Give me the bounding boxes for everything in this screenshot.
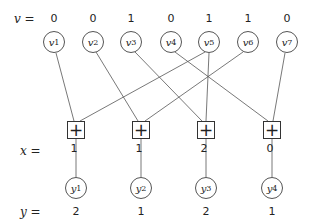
y4-sub: 4 [272,184,277,193]
v7-sub: 7 [287,38,292,47]
edge-v6-x2 [145,52,243,121]
edge-v3-x3 [135,52,202,121]
v5-sub: 5 [209,38,214,47]
sum-node-3-plus-icon: + [197,121,215,139]
v5-node: v5 [198,31,220,53]
v4-value: 0 [161,13,181,25]
v2-sub: 2 [93,38,98,47]
v7-value: 0 [277,13,297,25]
y1-value: 2 [66,206,86,218]
edge-v5-x1 [80,52,205,121]
v4-node: v4 [160,31,182,53]
y3-node: y3 [195,177,217,199]
y2-node: y2 [130,177,152,199]
x1-value: 1 [64,143,84,155]
row-label-y: y = [20,205,41,219]
v6-value: 1 [238,13,258,25]
y4-node: y4 [261,177,283,199]
v3-node: v3 [120,31,142,53]
y2-sub: 2 [141,184,146,193]
y1-node: y1 [65,177,87,199]
edge-v5-x3 [206,53,209,121]
v1-node: v1 [43,31,65,53]
v4-sub: 4 [171,38,176,47]
v3-sub: 3 [131,38,136,47]
v1-value: 0 [44,13,64,25]
x3-value: 2 [194,143,214,155]
v7-node: v7 [276,31,298,53]
edge-v4-x4 [175,52,268,121]
v5-value: 1 [199,13,219,25]
x2-value: 1 [129,143,149,155]
v2-value: 0 [83,13,103,25]
y4-value: 1 [262,206,282,218]
y3-sub: 3 [206,184,211,193]
row-label-x: x = [20,144,41,158]
sum-node-1-plus-icon: + [67,121,85,139]
edge-v2-x2 [96,52,138,121]
sum-node-2-plus-icon: + [132,121,150,139]
row-label-v: v = [14,12,35,26]
y2-value: 1 [131,206,151,218]
v6-node: v6 [237,31,259,53]
v6-sub: 6 [248,38,253,47]
y1-sub: 1 [76,184,81,193]
edge-v1-x1 [56,53,74,121]
v1-sub: 1 [54,38,59,47]
v2-node: v2 [82,31,104,53]
v3-value: 1 [121,13,141,25]
sum-node-4-plus-icon: + [263,121,281,139]
x4-value: 0 [260,143,280,155]
edge-v7-x4 [273,53,285,121]
y3-value: 2 [196,206,216,218]
